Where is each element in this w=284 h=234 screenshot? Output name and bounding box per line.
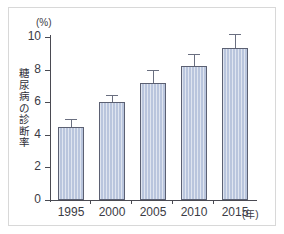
x-axis-unit-label: (年) [242,206,259,221]
x-axis-label-1995: 1995 [49,204,93,220]
y-tick-label-6: 6 [34,94,41,109]
y-tick-0: 0 [45,200,50,201]
x-axis-label-2010: 2010 [172,204,216,220]
y-tick-label-8: 8 [34,62,41,77]
y-tick-label-10: 10 [28,29,41,44]
bar-2000 [99,102,125,200]
y-tick-label-2: 2 [34,159,41,174]
bar-1995 [58,127,84,200]
error-bar-line-2015 [235,35,236,49]
x-axis-line [49,200,257,201]
plot-area [50,37,255,200]
error-bar-line-1995 [71,120,72,127]
y-axis-unit-label: (%) [36,17,52,28]
chart-figure: (%) 糖尿病の診断率 0 2 4 6 8 10 [0,0,284,234]
error-bar-line-2005 [153,71,154,82]
error-bar-cap-2010 [188,54,200,55]
error-bar-line-2010 [194,55,195,66]
y-axis-title: 糖尿病の診断率 [16,68,31,149]
error-bar-line-2000 [112,96,113,103]
y-tick-label-0: 0 [34,192,41,207]
x-axis-label-2005: 2005 [131,204,175,220]
y-tick-label-4: 4 [34,127,41,142]
bar-2005 [140,83,166,200]
error-bar-cap-2005 [147,70,159,71]
bar-2010 [181,66,207,200]
error-bar-cap-2000 [106,95,118,96]
bar-2015 [222,48,248,200]
error-bar-cap-2015 [229,34,241,35]
x-axis-label-2000: 2000 [90,204,134,220]
error-bar-cap-1995 [65,119,77,120]
